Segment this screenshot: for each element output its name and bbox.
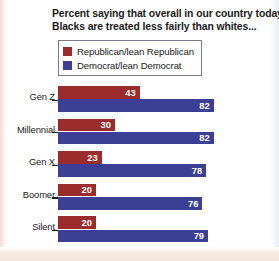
legend-item-republican: Republican/lean Republican bbox=[63, 44, 194, 58]
bar-value-label: 76 bbox=[188, 199, 202, 208]
bar-rep: 23 bbox=[58, 151, 102, 164]
legend-swatch-republican bbox=[63, 47, 72, 56]
legend-label-democrat: Democrat/lean Democrat bbox=[77, 60, 181, 71]
bar-rep: 30 bbox=[58, 119, 115, 132]
bar-value-label: 30 bbox=[101, 120, 115, 129]
bar-group: 2079 bbox=[58, 216, 208, 242]
bar-value-label: 43 bbox=[125, 88, 139, 97]
bar-dem: 79 bbox=[58, 230, 208, 243]
chart-legend: Republican/lean Republican Democrat/lean… bbox=[58, 40, 202, 76]
category-label: Silent bbox=[0, 221, 55, 232]
category-label: Gen Z bbox=[0, 91, 55, 102]
bar-rep: 20 bbox=[58, 216, 96, 229]
bar-group: 4382 bbox=[58, 86, 214, 112]
chart-row: Boomer2076 bbox=[0, 182, 279, 215]
bar-value-label: 23 bbox=[87, 153, 101, 162]
bar-value-label: 79 bbox=[194, 231, 208, 240]
bar-value-label: 82 bbox=[199, 101, 213, 110]
bar-rep: 20 bbox=[58, 184, 96, 197]
chart-title-line-2: Blacks are treated less fairly than whit… bbox=[52, 21, 274, 34]
page-edge-bottom bbox=[0, 247, 279, 261]
page-edge-top bbox=[0, 0, 279, 4]
bar-group: 2076 bbox=[58, 184, 202, 210]
chart-row: Gen X2378 bbox=[0, 149, 279, 182]
bar-value-label: 20 bbox=[82, 218, 96, 227]
legend-item-democrat: Democrat/lean Democrat bbox=[63, 58, 194, 72]
chart-title: Percent saying that overall in our count… bbox=[52, 8, 274, 33]
legend-swatch-democrat bbox=[63, 61, 72, 70]
chart-figure: Percent saying that overall in our count… bbox=[0, 0, 279, 261]
bar-group: 3082 bbox=[58, 119, 214, 145]
bar-dem: 76 bbox=[58, 197, 202, 210]
bar-dem: 82 bbox=[58, 99, 214, 112]
chart-row: Silent2079 bbox=[0, 214, 279, 247]
bar-value-label: 20 bbox=[82, 185, 96, 194]
chart-title-line-1: Percent saying that overall in our count… bbox=[52, 8, 274, 21]
chart-plot-area: Gen Z4382Millennial3082Gen X2378Boomer20… bbox=[0, 84, 279, 247]
bar-value-label: 78 bbox=[192, 166, 206, 175]
bar-dem: 78 bbox=[58, 164, 206, 177]
category-label: Millennial bbox=[0, 124, 55, 135]
category-label: Boomer bbox=[0, 189, 55, 200]
chart-row: Millennial3082 bbox=[0, 117, 279, 150]
category-label: Gen X bbox=[0, 156, 55, 167]
bar-group: 2378 bbox=[58, 151, 206, 177]
bar-value-label: 82 bbox=[199, 133, 213, 142]
bar-dem: 82 bbox=[58, 132, 214, 145]
bar-rep: 43 bbox=[58, 86, 140, 99]
chart-row: Gen Z4382 bbox=[0, 84, 279, 117]
legend-label-republican: Republican/lean Republican bbox=[77, 46, 194, 57]
